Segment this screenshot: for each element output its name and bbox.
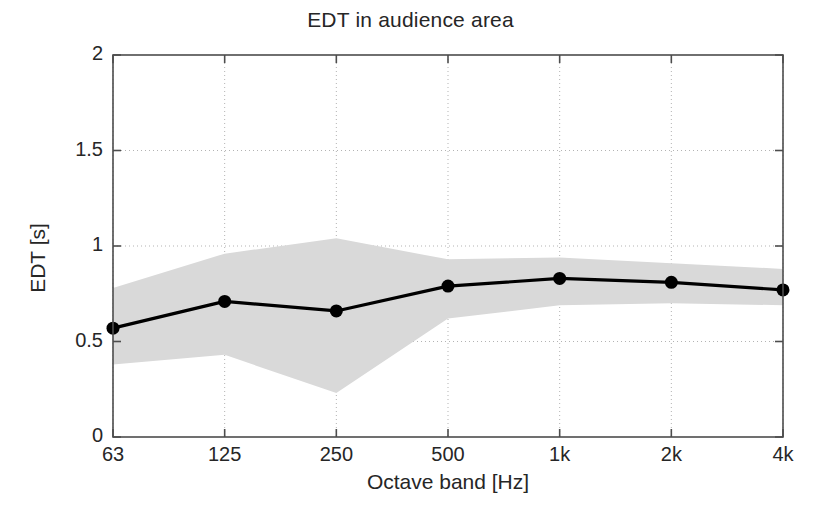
x-tick-label: 63: [78, 443, 148, 466]
y-tick-label: 1.5: [57, 138, 103, 161]
x-tick-label: 1k: [525, 443, 595, 466]
y-tick-label: 1: [57, 233, 103, 256]
x-tick-label: 500: [413, 443, 483, 466]
data-point-marker: [218, 295, 231, 308]
figure-edt-audience-area: EDT in audience area EDT [s] Octave band…: [0, 0, 821, 511]
data-point-marker: [330, 304, 343, 317]
data-point-marker: [665, 276, 678, 289]
y-tick-label: 0.5: [57, 329, 103, 352]
plot-canvas: [0, 0, 821, 511]
confidence-band-area: [113, 238, 783, 393]
x-tick-label: 125: [190, 443, 260, 466]
grid-lines: [113, 55, 783, 437]
data-point-marker: [553, 272, 566, 285]
x-tick-label: 2k: [636, 443, 706, 466]
x-tick-label: 4k: [748, 443, 818, 466]
y-tick-label: 2: [57, 42, 103, 65]
band-polygon: [113, 238, 783, 393]
data-point-marker: [442, 280, 455, 293]
x-tick-label: 250: [301, 443, 371, 466]
